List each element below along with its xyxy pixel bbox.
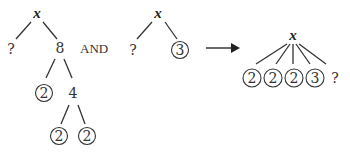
tree1-level3-right: 2 [83,128,92,144]
and-connector: AND [80,41,108,56]
tree1-left: ? [7,41,15,57]
tree1-right: 8 [56,40,65,56]
factor-tree-2: x ? 3 [129,5,188,59]
factor-tree-1: x ? 8 2 4 2 2 [7,5,95,145]
edge [43,22,57,39]
edge [78,105,85,124]
tree3-child: 2 [269,70,278,86]
factor-tree-3: x 2 2 2 3 ? [243,27,339,87]
edge [137,22,152,39]
tree3-child: 2 [290,70,299,86]
tree3-root: x [288,27,297,43]
tree1-level2-left: 2 [40,85,49,101]
tree1-level3-left: 2 [55,128,64,144]
tree1-root: x [32,5,41,21]
tree3-child: 2 [248,70,257,86]
edge [64,59,72,78]
right-arrow-icon [206,43,240,53]
tree2-right: 3 [176,42,185,58]
factor-tree-diagram: x ? 8 2 4 2 2 AND x ? 3 x [0,0,350,159]
tree2-left: ? [129,42,137,58]
tree3-child-unknown: ? [331,70,339,86]
edge [165,22,177,39]
edge [46,59,55,78]
edge [61,105,69,124]
tree1-level2-right: 4 [69,85,78,101]
tree2-root: x [153,5,162,21]
edge [16,22,31,39]
tree3-child: 3 [311,70,320,86]
